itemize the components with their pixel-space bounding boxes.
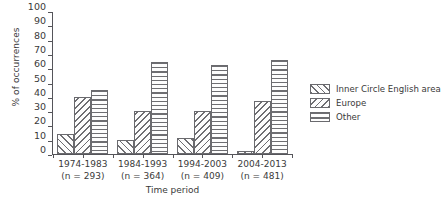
legend-swatch-icon — [310, 112, 330, 122]
bar-group — [53, 12, 113, 154]
x-axis-tick-labels: 1974-1983(n = 293)1984-1993(n = 364)1994… — [53, 158, 292, 182]
y-tick-mark — [48, 12, 52, 13]
legend-label: Other — [336, 112, 360, 122]
bar — [151, 62, 168, 154]
x-tick-label: 1994-2003(n = 409) — [173, 158, 233, 182]
y-tick-mark — [48, 41, 52, 42]
y-tick-mark — [48, 69, 52, 70]
legend-swatch-icon — [310, 84, 330, 94]
x-tick-label: 1974-1983(n = 293) — [53, 158, 113, 182]
y-tick-mark — [48, 112, 52, 113]
y-tick-mark — [48, 55, 52, 56]
bar-group — [113, 12, 173, 154]
x-tick-period: 2004-2013 — [232, 158, 292, 170]
bar-group — [232, 12, 292, 154]
y-tick-mark — [48, 98, 52, 99]
x-tick-period: 1984-1993 — [113, 158, 173, 170]
y-tick-mark — [48, 26, 52, 27]
y-tick-mark — [48, 84, 52, 85]
bar-groups — [53, 12, 292, 154]
y-axis-title: % of occurrences — [11, 7, 21, 127]
bar — [237, 151, 254, 154]
bar — [254, 101, 271, 154]
x-tick-sample-size: (n = 364) — [113, 170, 173, 182]
bar — [211, 65, 228, 154]
legend-item: Europe — [310, 96, 441, 109]
plot-area: 1009080706050403020100 — [52, 12, 292, 155]
bar — [117, 140, 134, 154]
y-tick-mark — [48, 126, 52, 127]
legend-item: Inner Circle English area — [310, 82, 441, 95]
x-tick-label: 2004-2013(n = 481) — [232, 158, 292, 182]
bar — [194, 111, 211, 154]
bar — [177, 138, 194, 154]
x-tick-mark — [292, 154, 293, 158]
bar-group — [173, 12, 233, 154]
bar — [134, 111, 151, 154]
bar — [91, 90, 108, 154]
chart-legend: Inner Circle English areaEuropeOther — [310, 82, 441, 124]
x-axis-title: Time period — [53, 185, 292, 195]
legend-label: Inner Circle English area — [336, 84, 441, 94]
legend-swatch-icon — [310, 98, 330, 108]
bar — [271, 60, 288, 154]
x-tick-sample-size: (n = 481) — [232, 170, 292, 182]
legend-item: Other — [310, 110, 441, 123]
x-tick-sample-size: (n = 409) — [173, 170, 233, 182]
x-tick-label: 1984-1993(n = 364) — [113, 158, 173, 182]
x-tick-sample-size: (n = 293) — [53, 170, 113, 182]
bar — [74, 97, 91, 154]
x-tick-period: 1994-2003 — [173, 158, 233, 170]
legend-label: Europe — [336, 98, 366, 108]
y-tick-mark — [48, 141, 52, 142]
bar — [57, 134, 74, 154]
y-tick-mark — [48, 155, 52, 156]
x-tick-period: 1974-1983 — [53, 158, 113, 170]
